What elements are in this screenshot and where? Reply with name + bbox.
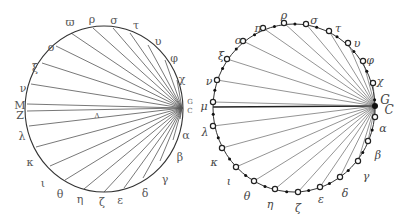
open-circle-marker xyxy=(251,178,256,183)
open-circle-marker xyxy=(210,99,215,104)
chord-line xyxy=(213,106,375,126)
open-circle-marker xyxy=(365,138,370,143)
point-label: α xyxy=(182,129,190,142)
point-label: χ xyxy=(179,73,186,86)
open-circle-marker xyxy=(233,164,238,169)
point-label: τ xyxy=(133,19,139,32)
filled-dot-marker xyxy=(347,169,350,172)
point-label: ο xyxy=(48,41,55,54)
filled-dot-marker xyxy=(221,67,224,70)
diameter-line xyxy=(213,106,375,107)
point-label: τ xyxy=(335,22,342,35)
open-circle-marker xyxy=(224,56,229,61)
point-label: η xyxy=(77,193,84,206)
point-label: γ xyxy=(363,170,370,183)
point-label: ξ xyxy=(218,50,225,63)
filled-dot-marker xyxy=(336,35,339,38)
open-circle-marker xyxy=(370,80,375,85)
point-label: μ xyxy=(200,100,207,113)
open-circle-marker xyxy=(303,21,308,26)
left-circle-diagram: ϖρστυφχαβγδεζηθικλΖΜνξοGCΛ xyxy=(14,13,193,209)
filled-dot-marker xyxy=(371,128,374,131)
hub-label-c: C xyxy=(384,103,393,117)
filled-dot-marker xyxy=(307,189,310,192)
chord-line xyxy=(50,108,182,166)
point-label: σ xyxy=(110,14,118,27)
open-circle-marker xyxy=(372,114,377,119)
point-label: λ xyxy=(201,126,209,139)
point-label: α xyxy=(379,122,387,135)
point-label: υ xyxy=(354,37,361,50)
open-circle-marker xyxy=(337,174,342,179)
open-circle-marker xyxy=(326,28,331,33)
filled-dot-marker xyxy=(361,151,364,154)
filled-dot-marker xyxy=(328,182,331,185)
point-label: χ xyxy=(376,75,385,88)
filled-dot-marker xyxy=(365,70,368,73)
filled-dot-marker xyxy=(228,157,231,160)
filled-dot-marker xyxy=(373,98,376,101)
point-label: ν xyxy=(20,82,27,95)
filled-dot-marker xyxy=(244,174,247,177)
point-label: κ xyxy=(27,156,34,169)
chord-line xyxy=(56,46,182,108)
point-label: δ xyxy=(342,187,349,200)
point-label: ζ xyxy=(99,196,105,209)
hub-marker xyxy=(372,103,378,109)
point-label: γ xyxy=(162,173,169,186)
chord-line xyxy=(65,108,182,180)
hub-label-g: G xyxy=(187,98,193,106)
point-label: λ xyxy=(19,130,26,143)
point-label: η xyxy=(267,198,274,211)
open-circle-marker xyxy=(295,189,300,194)
filled-dot-marker xyxy=(293,23,296,26)
filled-dot-marker xyxy=(285,190,288,193)
point-label: δ xyxy=(142,187,149,200)
filled-dot-marker xyxy=(217,136,220,139)
point-label: ο xyxy=(235,34,242,47)
point-label: ρ xyxy=(280,9,288,22)
chord-line xyxy=(36,108,182,147)
inner-label: Λ xyxy=(93,112,100,120)
filled-dot-marker xyxy=(352,50,355,53)
filled-dot-marker xyxy=(213,89,216,92)
filled-dot-marker xyxy=(264,185,267,188)
point-label: φ xyxy=(366,54,374,67)
point-label: ρ xyxy=(89,13,95,26)
point-label: β xyxy=(374,149,381,162)
point-label: Μ xyxy=(14,99,25,112)
point-label: ι xyxy=(227,175,231,188)
point-label: θ xyxy=(57,188,64,201)
chord-line xyxy=(275,106,375,189)
point-label: ϖ xyxy=(66,16,75,29)
filled-dot-marker xyxy=(212,113,215,116)
point-label: β xyxy=(177,151,183,164)
point-label: ξ xyxy=(32,62,38,75)
open-circle-marker xyxy=(210,123,215,128)
chord-line xyxy=(222,106,375,148)
chord-line xyxy=(104,108,182,192)
hub-label-c: C xyxy=(187,107,192,115)
point-label: θ xyxy=(244,190,251,203)
open-circle-marker xyxy=(360,58,365,63)
right-circle-diagram: ρστυφχαβγδεζηθικλμνξοπGC xyxy=(200,9,393,215)
chord-line xyxy=(227,59,375,106)
point-label: ι xyxy=(41,177,45,190)
chord-line xyxy=(213,102,375,106)
point-label: ζ xyxy=(295,202,302,215)
point-label: ε xyxy=(117,194,123,207)
open-circle-marker xyxy=(214,77,219,82)
chord-line xyxy=(217,80,375,106)
filled-dot-marker xyxy=(273,25,276,28)
open-circle-marker xyxy=(317,184,322,189)
point-label: υ xyxy=(155,35,162,48)
point-label: π xyxy=(253,22,262,35)
point-label: ε xyxy=(318,193,324,206)
open-circle-marker xyxy=(219,145,224,150)
point-label: ν xyxy=(206,75,213,88)
open-circle-marker xyxy=(355,158,360,163)
point-label: σ xyxy=(310,14,318,27)
open-circle-marker xyxy=(272,186,277,191)
point-label: κ xyxy=(209,156,218,169)
two-circle-chord-diagram: ϖρστυφχαβγδεζηθικλΖΜνξοGCΛ ρστυφχαβγδεζη… xyxy=(0,0,407,217)
